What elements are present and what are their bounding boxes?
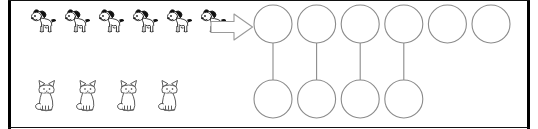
worksheet-canvas bbox=[0, 0, 538, 129]
dog-icon bbox=[126, 6, 160, 40]
dogs-row bbox=[0, 2, 538, 50]
cat-icon bbox=[32, 78, 63, 114]
dog-group bbox=[24, 6, 228, 40]
cat-icon bbox=[73, 78, 104, 114]
frame-bottom-border bbox=[8, 127, 530, 128]
dog-icon bbox=[24, 6, 58, 40]
dog-icon bbox=[160, 6, 194, 40]
block-arrow-right-icon bbox=[210, 12, 254, 42]
cat-group bbox=[32, 78, 186, 114]
cats-row bbox=[0, 74, 538, 124]
cat-icon bbox=[155, 78, 186, 114]
frame-top-border bbox=[8, 0, 530, 1]
dog-icon bbox=[58, 6, 92, 40]
dog-icon bbox=[92, 6, 126, 40]
cat-icon bbox=[114, 78, 145, 114]
